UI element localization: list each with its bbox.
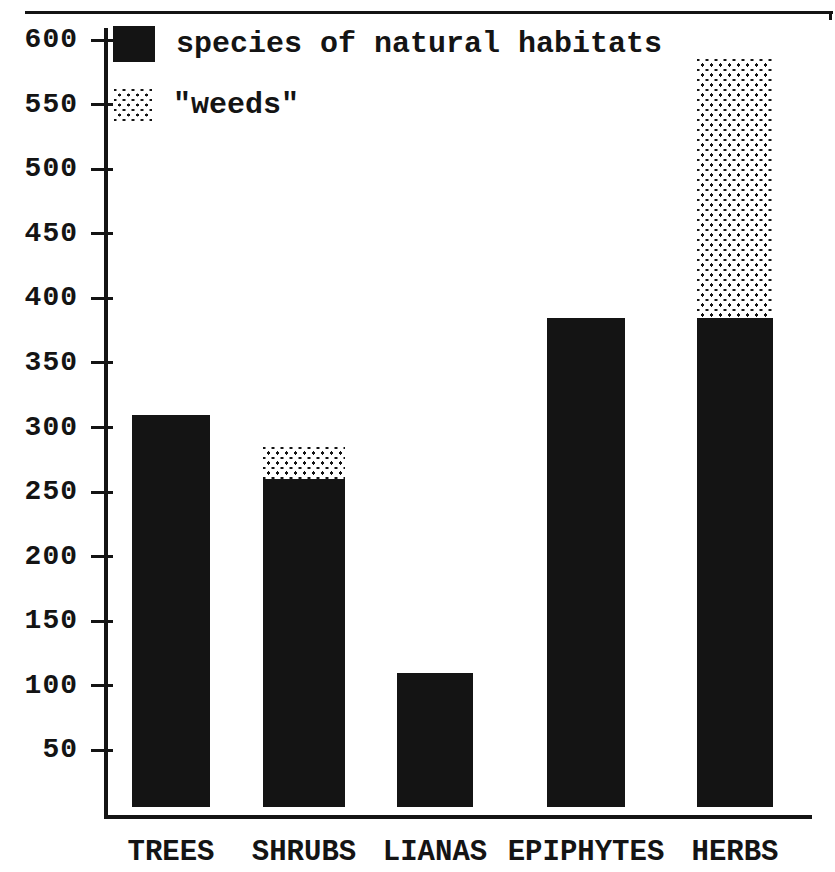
legend-label-natural-habitats: species of natural habitats xyxy=(176,27,662,61)
x-category-label-lianas: LIANAS xyxy=(383,836,487,869)
legend-label-weeds: "weeds" xyxy=(173,88,299,122)
y-tick-200 xyxy=(91,555,113,558)
y-tick-150 xyxy=(91,620,113,623)
bar-epiphytes-natural-habitats xyxy=(547,318,625,807)
x-category-label-herbs: HERBS xyxy=(691,836,778,869)
y-tick-label-600: 600 xyxy=(0,25,78,55)
page-top-rule-end-tick xyxy=(829,11,832,20)
y-tick-label-150: 150 xyxy=(0,606,78,636)
bar-herbs-weeds xyxy=(697,59,773,317)
y-tick-450 xyxy=(91,232,113,235)
legend-swatch-stippled-dots xyxy=(114,89,152,122)
x-axis-line xyxy=(104,815,812,819)
y-tick-50 xyxy=(91,749,113,752)
y-tick-350 xyxy=(91,361,113,364)
legend-swatch-solid-black xyxy=(113,26,155,62)
y-tick-300 xyxy=(91,426,113,429)
scanned-figure-page: 50100150200250300350400450500550600 TREE… xyxy=(0,0,835,872)
y-tick-400 xyxy=(91,297,113,300)
page-top-rule xyxy=(25,11,833,14)
y-tick-550 xyxy=(91,103,113,106)
y-tick-label-250: 250 xyxy=(0,477,78,507)
bar-lianas-natural-habitats xyxy=(397,673,473,807)
y-tick-label-550: 550 xyxy=(0,90,78,120)
y-tick-label-400: 400 xyxy=(0,283,78,313)
y-tick-label-300: 300 xyxy=(0,413,78,443)
bar-shrubs-natural-habitats xyxy=(263,479,345,807)
bar-herbs-natural-habitats xyxy=(697,318,773,807)
y-tick-100 xyxy=(91,684,113,687)
y-tick-250 xyxy=(91,491,113,494)
legend-item-weeds: "weeds" xyxy=(114,88,299,122)
bar-shrubs-weeds xyxy=(263,447,345,479)
x-category-label-epiphytes: EPIPHYTES xyxy=(508,836,665,869)
bar-trees-natural-habitats xyxy=(132,415,210,807)
legend-item-natural-habitats: species of natural habitats xyxy=(113,26,662,62)
y-tick-label-50: 50 xyxy=(0,735,78,765)
x-category-label-trees: TREES xyxy=(127,836,214,869)
x-category-label-shrubs: SHRUBS xyxy=(252,836,356,869)
y-tick-label-500: 500 xyxy=(0,154,78,184)
y-tick-600 xyxy=(91,39,113,42)
y-tick-500 xyxy=(91,168,113,171)
y-tick-label-350: 350 xyxy=(0,348,78,378)
y-tick-label-100: 100 xyxy=(0,671,78,701)
y-axis-line xyxy=(104,28,108,819)
y-tick-label-200: 200 xyxy=(0,542,78,572)
y-tick-label-450: 450 xyxy=(0,219,78,249)
